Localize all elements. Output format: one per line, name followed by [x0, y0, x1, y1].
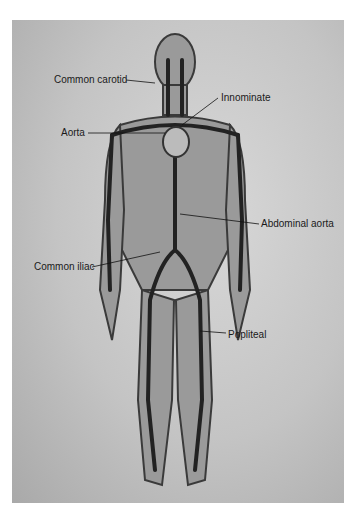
label-common-carotid: Common carotid	[54, 75, 127, 85]
head-shape	[155, 34, 195, 90]
label-innominate: Innominate	[221, 93, 270, 103]
label-common-iliac: Common iliac	[34, 262, 95, 272]
label-abdominal-aorta: Abdominal aorta	[261, 219, 334, 229]
heart-shape	[163, 127, 189, 157]
label-popliteal: Popliteal	[228, 330, 266, 340]
label-aorta: Aorta	[61, 128, 85, 138]
